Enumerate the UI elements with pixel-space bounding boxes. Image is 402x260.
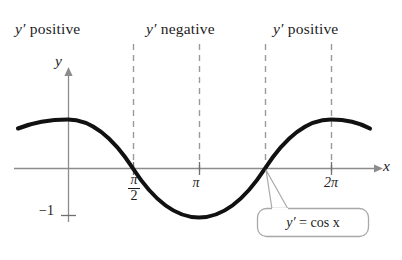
callout-equation: y′ = cos x — [259, 215, 367, 231]
region-label-text: positive — [30, 20, 81, 37]
fraction-numerator: π — [128, 173, 139, 189]
tick-label-pi: π — [185, 175, 207, 191]
prime-symbol: ′ — [153, 20, 157, 37]
tick-label-two-pi: 2π — [317, 175, 345, 191]
prime-symbol: ′ — [280, 20, 284, 37]
tick-label-negative-one: −1 — [22, 203, 54, 219]
fraction-denominator: 2 — [128, 189, 139, 204]
callout-pointer — [266, 170, 288, 209]
x-axis-label: x — [383, 157, 390, 175]
region-label-negative-middle: y′ negative — [146, 20, 215, 38]
region-label-positive-right: y′ positive — [273, 20, 338, 38]
fraction-pi-over-two: π 2 — [128, 173, 139, 203]
region-label-positive-left: y′ positive — [15, 20, 80, 38]
y-axis — [64, 67, 72, 222]
tick-label-half-pi: π 2 — [123, 173, 145, 203]
x-axis — [14, 164, 383, 172]
prime-symbol: ′ — [22, 20, 26, 37]
callout-equation-text: = cos x — [296, 215, 340, 230]
region-label-text: positive — [288, 20, 339, 37]
dashed-gridlines — [134, 44, 332, 171]
y-axis-label: y — [55, 52, 62, 70]
region-label-text: negative — [161, 20, 215, 37]
